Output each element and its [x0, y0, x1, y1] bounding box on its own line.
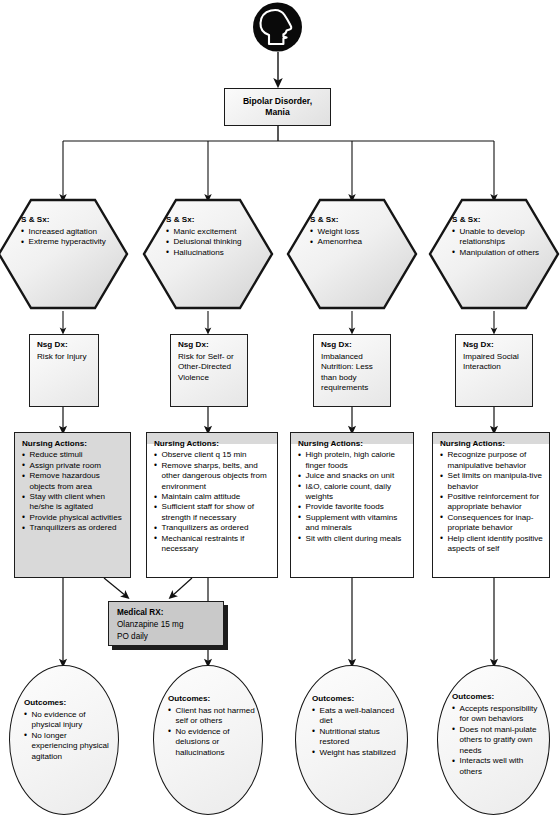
nursing-diagnosis-box-1: Nsg Dx: Risk for Injury: [29, 334, 99, 407]
nsg-dx-4-line: Interaction: [463, 362, 526, 373]
hexagon-3-content: S & Sx: Weight loss Amenorrhea: [310, 215, 410, 248]
hexagon-4-heading: S & Sx:: [452, 215, 552, 226]
hexagon-2-heading: S & Sx:: [166, 215, 266, 226]
nursing-actions-2-heading: Nursing Actions:: [154, 439, 272, 449]
signs-symptoms-hexagon-4: S & Sx: Unable to develop relationships …: [428, 198, 560, 310]
medical-rx-heading: Medical RX:: [117, 607, 217, 618]
hexagon-1-content: S & Sx: Increased agitation Extreme hype…: [21, 215, 121, 248]
signs-symptoms-hexagon-1: S & Sx: Increased agitation Extreme hype…: [0, 198, 129, 310]
outcomes-4-content: Outcomes: Accepts responsibility for own…: [452, 692, 546, 777]
nsg-dx-2-line: Risk for Self- or: [178, 352, 241, 363]
nsg-dx-3-heading: Nsg Dx:: [321, 340, 384, 351]
outcomes-4-heading: Outcomes:: [452, 692, 546, 703]
outcomes-1-content: Outcomes: No evidence of physical injury…: [24, 698, 114, 762]
medical-rx-line2: PO daily: [117, 631, 217, 642]
list-item: I&O, calorie count, daily weights: [298, 482, 408, 503]
list-item: Consequences for inap-propriate behavior: [440, 513, 544, 534]
list-item: Weight has stabilized: [312, 748, 404, 759]
list-item: Mechanical restraints if necessary: [154, 534, 272, 555]
list-item: Tranquilizers as ordered: [154, 523, 272, 533]
list-item: Tranquilizers as ordered: [22, 523, 125, 533]
nursing-actions-4-heading: Nursing Actions:: [440, 439, 544, 449]
list-item: Set limits on manipula-tive behavior: [440, 471, 544, 492]
outcomes-2-heading: Outcomes:: [168, 694, 258, 705]
outcomes-1-heading: Outcomes:: [24, 698, 114, 709]
list-item: Assign private room: [22, 461, 125, 471]
nsg-dx-2-line: Violence: [178, 373, 241, 384]
head-profile-icon: [251, 2, 304, 52]
list-item: Juice and snacks on unit: [298, 471, 408, 481]
list-item: High protein, high calorie finger foods: [298, 450, 408, 471]
nursing-diagnosis-box-2: Nsg Dx: Risk for Self- or Other-Directed…: [170, 334, 248, 407]
list-item: Weight loss: [310, 227, 410, 238]
nsg-dx-3-line: requirements: [321, 383, 384, 394]
list-item: No evidence of delusions or hallucinatio…: [168, 727, 258, 759]
list-item: Remove hazardous objects from area: [22, 471, 125, 492]
list-item: Stay with client when he/she is agitated: [22, 492, 125, 513]
list-item: Help client identify positive aspects of…: [440, 534, 544, 555]
list-item: Remove sharps, belts, and other dangerou…: [154, 461, 272, 492]
list-item: No evidence of physical injury: [24, 710, 114, 731]
list-item: Maintain calm attitude: [154, 492, 272, 502]
list-item: Reduce stimuli: [22, 450, 125, 460]
list-item: Observe client q 15 min: [154, 450, 272, 460]
signs-symptoms-hexagon-3: S & Sx: Weight loss Amenorrhea: [286, 198, 418, 310]
root-title-line2: Mania: [265, 107, 289, 117]
nsg-dx-2-heading: Nsg Dx:: [178, 340, 241, 351]
list-item: Delusional thinking: [166, 237, 266, 248]
nursing-actions-box-3: Nursing Actions: High protein, high calo…: [290, 432, 414, 578]
root-title-line1: Bipolar Disorder,: [243, 96, 312, 106]
nsg-dx-3-line: Imbalanced: [321, 352, 384, 363]
list-item: Manic excitement: [166, 227, 266, 238]
nsg-dx-1-line: Risk for Injury: [37, 352, 92, 363]
list-item: Accepts responsibility for own behaviors: [452, 704, 546, 725]
list-item: Client has not harmed self or others: [168, 706, 258, 727]
list-item: Unable to develop relationships: [452, 227, 552, 248]
outcomes-3-heading: Outcomes:: [312, 694, 404, 705]
list-item: Positive reinforcement for appropriate b…: [440, 492, 544, 513]
nursing-actions-box-4: Nursing Actions: Recognize purpose of ma…: [432, 432, 550, 578]
nursing-diagnosis-box-4: Nsg Dx: Impaired Social Interaction: [455, 334, 533, 407]
nsg-dx-3-line: than body: [321, 373, 384, 384]
hexagon-4-content: S & Sx: Unable to develop relationships …: [452, 215, 552, 258]
list-item: No longer experiencing physical agitatio…: [24, 731, 114, 763]
hexagon-2-content: S & Sx: Manic excitement Delusional thin…: [166, 215, 266, 258]
hexagon-3-heading: S & Sx:: [310, 215, 410, 226]
list-item: Interacts well with others: [452, 756, 546, 777]
nursing-actions-1-heading: Nursing Actions:: [22, 439, 125, 449]
list-item: Increased agitation: [21, 227, 121, 238]
list-item: Supplement with vitamins and minerals: [298, 513, 408, 534]
list-item: Sufficient staff for show of strength if…: [154, 502, 272, 523]
list-item: Provide favorite foods: [298, 502, 408, 512]
nursing-diagnosis-box-3: Nsg Dx: Imbalanced Nutrition: Less than …: [313, 334, 391, 407]
list-item: Does not mani-pulate others to gratify o…: [452, 725, 546, 757]
list-item: Manipulation of others: [452, 248, 552, 259]
nsg-dx-4-line: Impaired Social: [463, 352, 526, 363]
nursing-actions-box-1: Nursing Actions: Reduce stimuli Assign p…: [14, 432, 131, 578]
outcomes-3-content: Outcomes: Eats a well-balanced diet Nutr…: [312, 694, 404, 758]
list-item: Recognize purpose of manipulative behavi…: [440, 450, 544, 471]
nsg-dx-1-heading: Nsg Dx:: [37, 340, 92, 351]
signs-symptoms-hexagon-2: S & Sx: Manic excitement Delusional thin…: [142, 198, 274, 310]
root-diagnosis-box: Bipolar Disorder, Mania: [224, 88, 331, 126]
nsg-dx-4-heading: Nsg Dx:: [463, 340, 526, 351]
nursing-actions-3-heading: Nursing Actions:: [298, 439, 408, 449]
list-item: Hallucinations: [166, 248, 266, 259]
hexagon-1-heading: S & Sx:: [21, 215, 121, 226]
list-item: Extreme hyperactivity: [21, 237, 121, 248]
list-item: Amenorrhea: [310, 237, 410, 248]
medical-rx-box: Medical RX: Olanzapine 15 mg PO daily: [108, 601, 224, 646]
list-item: Sit with client during meals: [298, 534, 408, 544]
list-item: Eats a well-balanced diet: [312, 706, 404, 727]
nsg-dx-3-line: Nutrition: Less: [321, 362, 384, 373]
nursing-actions-box-2: Nursing Actions: Observe client q 15 min…: [146, 432, 278, 578]
outcomes-2-content: Outcomes: Client has not harmed self or …: [168, 694, 258, 758]
list-item: Provide physical activities: [22, 513, 125, 523]
list-item: Nutritional status restored: [312, 727, 404, 748]
medical-rx-line1: Olanzapine 15 mg: [117, 619, 217, 630]
nsg-dx-2-line: Other-Directed: [178, 362, 241, 373]
